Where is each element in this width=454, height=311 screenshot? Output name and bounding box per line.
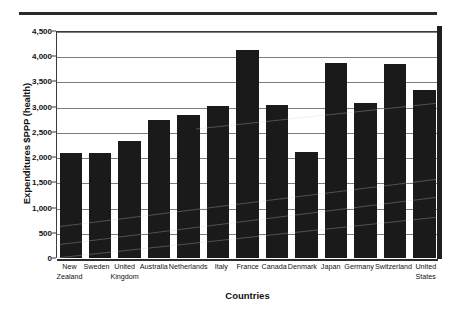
gridline-0 — [57, 259, 438, 261]
bar-slot — [203, 31, 232, 258]
x-tick-label: Canada — [261, 262, 287, 272]
y-tick-label-1500: 1,500 — [0, 178, 52, 187]
y-tick-label-4500: 4,500 — [0, 27, 52, 36]
x-axis-tick-labels: New ZealandSwedenUnited KingdomAustralia… — [56, 262, 439, 281]
header-rule — [19, 12, 437, 15]
bar — [89, 153, 111, 258]
bar — [207, 106, 229, 258]
y-tick-label-500: 500 — [0, 228, 52, 237]
x-tick-label: Australia — [139, 262, 168, 272]
x-tick-label: Denmark — [287, 262, 317, 272]
bar-series — [56, 31, 439, 258]
bar-slot — [85, 31, 114, 258]
bar — [60, 153, 82, 258]
bar — [266, 105, 288, 258]
x-tick-label: France — [234, 262, 260, 272]
page-edge-artifact — [437, 26, 442, 259]
bar-slot — [115, 31, 144, 258]
bar — [354, 103, 376, 258]
bar — [148, 120, 170, 258]
bar-slot — [380, 31, 409, 258]
bar-slot — [56, 31, 85, 258]
x-tick-label: United Kingdom — [110, 262, 139, 281]
y-axis-tick-labels: 05001,0001,5002,0002,5003,0003,5004,0004… — [0, 31, 52, 258]
x-tick-label: New Zealand — [56, 262, 83, 281]
bar — [236, 50, 258, 258]
bar-slot — [351, 31, 380, 258]
bar-slot — [292, 31, 321, 258]
bar — [384, 64, 406, 258]
bar — [177, 115, 199, 258]
x-tick-label: Italy — [208, 262, 234, 272]
bar-slot — [144, 31, 173, 258]
x-tick-label: Netherlands — [168, 262, 208, 272]
bar-slot — [410, 31, 439, 258]
bar — [295, 152, 317, 258]
x-tick-label: Sweden — [83, 262, 110, 272]
x-tick-label: United States — [413, 262, 439, 281]
bar — [413, 90, 435, 258]
y-tick-label-1000: 1,000 — [0, 203, 52, 212]
bar-slot — [174, 31, 203, 258]
y-tick-label-3000: 3,000 — [0, 102, 52, 111]
bar-slot — [262, 31, 291, 258]
y-tick-label-4000: 4,000 — [0, 52, 52, 61]
bar-slot — [233, 31, 262, 258]
x-tick-label: Germany — [344, 262, 375, 272]
bar — [118, 141, 140, 258]
x-axis-title: Countries — [56, 290, 439, 301]
y-tick-label-0: 0 — [0, 254, 52, 263]
y-tick-label-3500: 3,500 — [0, 77, 52, 86]
y-tick-label-2500: 2,500 — [0, 127, 52, 136]
y-tick-label-2000: 2,000 — [0, 153, 52, 162]
bar — [325, 63, 347, 258]
bar-slot — [321, 31, 350, 258]
x-tick-label: Switzerland — [374, 262, 412, 272]
bar-chart-figure: Expenditures $PPP (health) 05001,0001,50… — [0, 0, 454, 311]
x-tick-label: Japan — [317, 262, 343, 272]
